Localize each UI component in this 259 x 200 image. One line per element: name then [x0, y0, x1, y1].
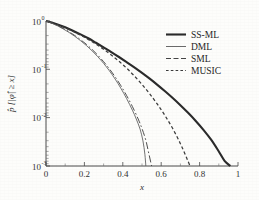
x-axis-label: x: [139, 182, 144, 192]
legend-label-sml: SML: [191, 54, 211, 64]
y-ticklabel-1e-2-mantissa: 10: [32, 113, 42, 123]
y-ticklabel-1e-1-mantissa: 10: [32, 65, 42, 75]
y-ticklabel-1e-2-exponent: -2: [42, 112, 47, 118]
x-ticklabel-0.2: 0.2: [79, 169, 90, 179]
legend-label-dml: DML: [191, 42, 212, 52]
y-ticklabel-1e-3-mantissa: 10: [32, 162, 42, 172]
chart-svg: 10 0 10 -1 10 -2 10 -3 0 0.2: [0, 0, 259, 200]
y-axis-label: p̂ [|φ̂| ≥ x]: [6, 74, 16, 113]
y-ticklabel-1e0-exponent: 0: [42, 15, 45, 21]
chart-figure: 10 0 10 -1 10 -2 10 -3 0 0.2: [0, 0, 259, 200]
legend-label-ss-ml: SS-ML: [191, 30, 219, 40]
y-ticklabel-1e0-mantissa: 10: [32, 17, 42, 27]
x-ticklabel-0: 0: [44, 169, 49, 179]
x-ticklabel-0.4: 0.4: [117, 169, 129, 179]
x-ticklabel-0.8: 0.8: [194, 169, 206, 179]
y-ticklabel-1e-1-exponent: -1: [42, 63, 47, 69]
x-ticklabel-0.6: 0.6: [156, 169, 168, 179]
legend-label-music: MUSIC: [191, 66, 221, 76]
x-ticklabel-1: 1: [236, 169, 241, 179]
